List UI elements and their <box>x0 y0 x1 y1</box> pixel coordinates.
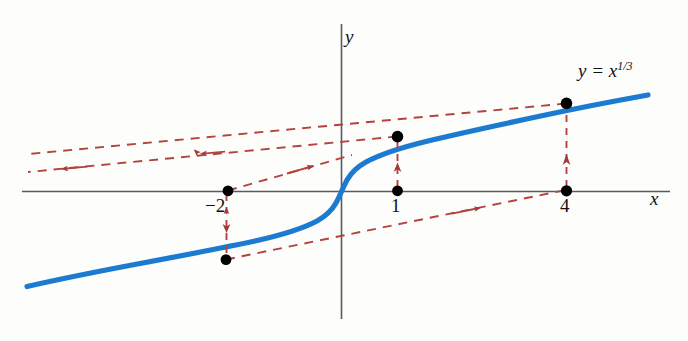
curve-equation-exponent: 1/3 <box>617 59 632 73</box>
curve-equation-base: y = x <box>578 60 617 81</box>
axes-group <box>22 24 670 319</box>
cube-root-function-figure: y x y = x1/3 −2 1 4 <box>0 0 688 341</box>
arrowhead-stem-right-upper <box>287 167 311 174</box>
x-axis-label: x <box>650 188 658 210</box>
arrowhead-up-4 <box>563 154 571 165</box>
tick-label-one: 1 <box>391 195 401 217</box>
curve-equation-label: y = x1/3 <box>578 59 633 82</box>
plot-canvas <box>0 0 688 341</box>
y-axis-label: y <box>345 26 353 48</box>
tick-label-four: 4 <box>560 195 570 217</box>
tick-label-neg-two: −2 <box>205 195 225 217</box>
arrowhead-left-from-4-value <box>196 152 230 186</box>
point-on-curve-4 <box>561 98 573 110</box>
arrowhead-stem-left-lower <box>64 167 87 169</box>
point-on-curve-1 <box>392 131 404 143</box>
arrowhead-stem-right-lower <box>452 208 478 213</box>
point-on-curve-neg2 <box>221 254 232 265</box>
